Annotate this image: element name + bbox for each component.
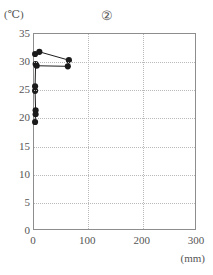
chart-figure: (℃) ② 05101520253035 0100200300 (mm) xyxy=(0,0,213,275)
x-axis-tick-labels: 0100200300 xyxy=(33,235,196,249)
gridline-horizontal xyxy=(34,175,195,176)
x-axis-unit-label: (mm) xyxy=(181,252,205,264)
data-point xyxy=(32,119,38,125)
x-tick-label: 100 xyxy=(67,235,107,246)
y-tick-label: 30 xyxy=(2,56,30,67)
y-tick-label: 5 xyxy=(2,197,30,208)
y-tick-label: 25 xyxy=(2,84,30,95)
y-tick-label: 15 xyxy=(2,141,30,152)
plot-area xyxy=(33,33,196,230)
gridline-horizontal xyxy=(34,147,195,148)
gridline-horizontal xyxy=(34,90,195,91)
panel-title: ② xyxy=(0,9,213,23)
gridline-vertical xyxy=(88,34,89,229)
x-tick-label: 200 xyxy=(122,235,162,246)
data-point xyxy=(65,63,71,69)
y-tick-label: 35 xyxy=(2,28,30,39)
x-tick-label: 0 xyxy=(13,235,53,246)
data-point xyxy=(36,49,42,55)
gridline-vertical xyxy=(143,34,144,229)
gridline-horizontal xyxy=(34,203,195,204)
x-tick-label: 300 xyxy=(176,235,213,246)
gridline-horizontal xyxy=(34,118,195,119)
data-point xyxy=(33,111,39,117)
gridline-horizontal xyxy=(34,62,195,63)
y-tick-label: 10 xyxy=(2,169,30,180)
y-tick-label: 20 xyxy=(2,112,30,123)
y-axis-tick-labels: 05101520253035 xyxy=(0,33,30,230)
data-series-layer xyxy=(34,34,195,229)
